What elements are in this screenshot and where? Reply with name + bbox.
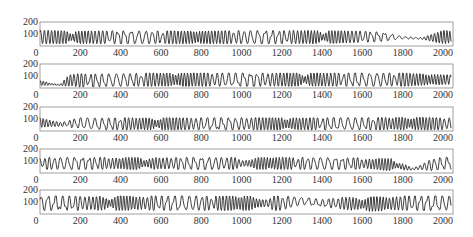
x-tick-label: 2000 (433, 90, 453, 100)
y-tick-label: 200 (4, 59, 38, 69)
y-tick-label: 100 (4, 71, 38, 81)
y-tick-label: 100 (4, 29, 38, 39)
x-tick-label: 0 (34, 133, 39, 143)
x-tick-label: 0 (34, 216, 39, 226)
x-tick-label: 1200 (272, 216, 292, 226)
signal-line (40, 196, 451, 211)
x-tick-label: 1200 (272, 90, 292, 100)
subplot-3: 2001000200400600800100012001400160018002… (0, 101, 473, 143)
x-tick-label: 600 (153, 90, 168, 100)
x-tick-label: 0 (34, 48, 39, 58)
x-tick-label: 1800 (393, 216, 413, 226)
y-tick-label: 200 (4, 102, 38, 112)
x-tick-label: 1800 (393, 133, 413, 143)
x-tick-label: 600 (153, 216, 168, 226)
x-tick-label: 1000 (231, 216, 251, 226)
x-tick-label: 1400 (312, 216, 332, 226)
x-tick-label: 200 (73, 90, 88, 100)
x-tick-label: 1400 (312, 90, 332, 100)
x-tick-label: 1400 (312, 48, 332, 58)
x-tick-label: 2000 (433, 133, 453, 143)
x-tick-label: 400 (113, 133, 128, 143)
x-tick-label: 1000 (231, 90, 251, 100)
x-tick-label: 0 (34, 90, 39, 100)
signal-line (40, 73, 451, 87)
x-tick-label: 600 (153, 133, 168, 143)
x-tick-label: 1400 (312, 133, 332, 143)
x-tick-label: 1600 (352, 133, 372, 143)
subplot-2: 2001000200400600800100012001400160018002… (0, 58, 473, 100)
x-tick-label: 2000 (433, 216, 453, 226)
signal-line (40, 30, 451, 43)
subplot-5: 2001000200400600800100012001400160018002… (0, 184, 473, 226)
y-tick-label: 200 (4, 144, 38, 154)
y-tick-label: 100 (4, 114, 38, 124)
y-tick-label: 200 (4, 185, 38, 195)
y-tick-label: 100 (4, 156, 38, 166)
subplot-4: 2001000200400600800100012001400160018002… (0, 143, 473, 185)
x-tick-label: 600 (153, 48, 168, 58)
x-tick-label: 2000 (433, 48, 453, 58)
signal-line (40, 157, 451, 170)
x-tick-label: 1000 (231, 48, 251, 58)
x-tick-label: 400 (113, 48, 128, 58)
x-tick-label: 800 (194, 90, 209, 100)
x-tick-label: 1200 (272, 133, 292, 143)
x-tick-label: 200 (73, 216, 88, 226)
x-tick-label: 400 (113, 216, 128, 226)
x-tick-label: 200 (73, 133, 88, 143)
x-tick-label: 800 (194, 48, 209, 58)
x-tick-label: 800 (194, 133, 209, 143)
x-tick-label: 1800 (393, 48, 413, 58)
x-tick-label: 400 (113, 90, 128, 100)
y-tick-label: 100 (4, 197, 38, 207)
signal-line (40, 117, 451, 130)
x-tick-label: 1600 (352, 90, 372, 100)
subplot-1: 2001000200400600800100012001400160018002… (0, 16, 473, 58)
x-tick-label: 800 (194, 216, 209, 226)
x-tick-label: 1000 (231, 133, 251, 143)
x-tick-label: 200 (73, 48, 88, 58)
y-tick-label: 200 (4, 17, 38, 27)
x-tick-label: 1600 (352, 216, 372, 226)
x-tick-label: 1200 (272, 48, 292, 58)
x-tick-label: 1600 (352, 48, 372, 58)
x-tick-label: 1800 (393, 90, 413, 100)
